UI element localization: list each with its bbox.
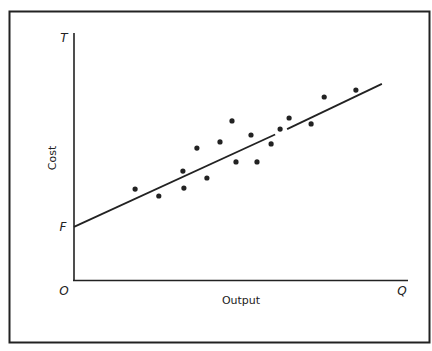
origin-label: O (59, 284, 68, 298)
data-point (181, 186, 186, 191)
fitted-cost-line (74, 84, 382, 227)
data-point (353, 88, 358, 93)
fitted-line-segment (74, 135, 275, 227)
data-point (217, 139, 222, 144)
chart-frame (10, 12, 430, 343)
data-point (278, 127, 283, 132)
data-point (309, 121, 314, 126)
x-end-label: Q (397, 284, 406, 298)
x-axis-title: Output (222, 294, 261, 307)
data-point (322, 94, 327, 99)
data-point (269, 141, 274, 146)
fitted-line-segment (287, 84, 382, 129)
data-point (204, 175, 209, 180)
data-point (156, 193, 161, 198)
data-point (254, 159, 259, 164)
data-point (233, 159, 238, 164)
data-point (194, 146, 199, 151)
data-point (229, 118, 234, 123)
chart: T F O Q Output Cost (0, 0, 432, 351)
y-axis-title: Cost (46, 145, 59, 170)
data-point (133, 187, 138, 192)
data-point (180, 169, 185, 174)
data-point (248, 132, 253, 137)
y-intercept-label: F (60, 220, 68, 234)
data-point (287, 115, 292, 120)
data-points (133, 88, 359, 199)
y-end-label: T (60, 31, 69, 45)
